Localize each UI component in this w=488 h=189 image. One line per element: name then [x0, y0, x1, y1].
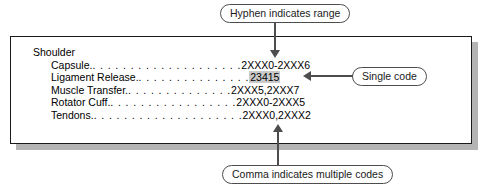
list-item: Tendons.. . . . . . . . . . . . . . . . …: [33, 109, 453, 121]
callout-hyphen-leader-line: [274, 23, 276, 52]
entry-codes: 2XXX5,2XXX7: [231, 84, 299, 96]
arrow-down-icon: [270, 50, 280, 58]
entry-codes: 2XXX0,2XXX2: [243, 109, 311, 121]
entry-label: Tendons.: [51, 109, 94, 121]
entry-codes: 2XXX0-2XXX6: [241, 59, 310, 71]
callout-comma-indicates-multiple-codes: Comma indicates multiple codes: [222, 165, 393, 184]
figure-canvas: Shoulder Capsule.. . . . . . . . . . . .…: [0, 0, 488, 189]
arrow-left-icon: [303, 71, 311, 81]
entry-codes: 2XXX0-2XXX5: [236, 96, 305, 108]
arrow-up-icon: [273, 124, 283, 132]
entry-label: Capsule.: [51, 59, 92, 71]
section-title: Shoulder: [33, 46, 453, 59]
code-list-panel: Shoulder Capsule.. . . . . . . . . . . .…: [10, 36, 472, 144]
list-item: Rotator Cuff.. . . . . . . . . . . . . .…: [33, 96, 453, 108]
dot-leader: . . . . . . . . . . . . . . . . .: [110, 96, 236, 108]
entry-codes-highlighted: 23415: [249, 71, 280, 83]
entry-label: Muscle Transfer.: [51, 84, 128, 96]
dot-leader: . . . . . . . . . . . . . . . . . . . .: [92, 59, 241, 71]
entry-label: Rotator Cuff.: [51, 96, 110, 108]
callout-hyphen-indicates-range: Hyphen indicates range: [220, 4, 350, 23]
dot-leader: . . . . . . . . . . . . . . . . . . . .: [94, 109, 243, 121]
dot-leader: . . . . . . . . . . . . . .: [128, 84, 231, 96]
callout-comma-leader-line: [277, 132, 279, 165]
callout-single-leader-line: [311, 75, 353, 77]
callout-single-code: Single code: [352, 67, 427, 86]
entry-label: Ligament Release.: [51, 71, 139, 83]
dot-leader: . . . . . . . . . . . . . . .: [139, 71, 250, 83]
